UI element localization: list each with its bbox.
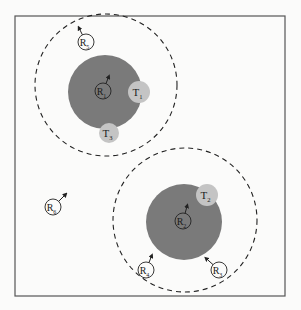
heading-arrow-icon — [59, 194, 66, 201]
node-label: R3 — [213, 265, 223, 278]
robot-r3: R3 — [206, 258, 227, 278]
diagram-frame — [15, 16, 285, 296]
heading-arrow-icon — [149, 256, 152, 263]
node-label: R6 — [47, 202, 57, 215]
target-t2: T2 — [196, 184, 218, 206]
heading-arrow-icon — [79, 28, 83, 35]
robot-r5: R5 — [78, 28, 94, 50]
diagram-canvas: T1T2T3 R1R2R3R4R5R6 — [0, 0, 301, 310]
range-circles — [35, 14, 257, 292]
target-t1: T1 — [128, 81, 150, 103]
robot-r6: R6 — [45, 194, 66, 215]
node-label: R5 — [80, 37, 90, 50]
target-t3: T3 — [99, 123, 119, 143]
robot-r4: R4 — [138, 256, 154, 278]
node-label: R4 — [140, 265, 150, 278]
